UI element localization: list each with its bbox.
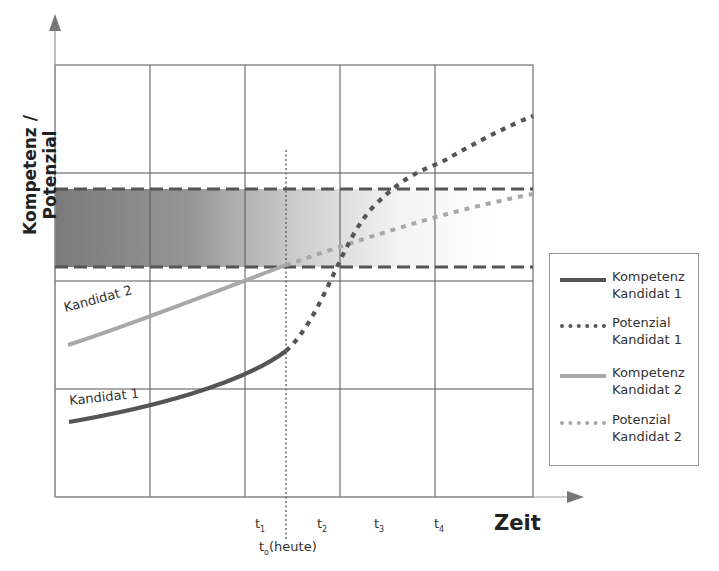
tick-t4: t4 — [434, 516, 444, 534]
legend-item-kompetenz-kandidat-2: KompetenzKandidat 2 — [550, 364, 700, 408]
x-axis-arrow-icon — [567, 491, 584, 503]
y-axis-arrow-icon — [49, 14, 61, 31]
grid — [55, 65, 533, 497]
tick-t0-today: to(heute) — [259, 539, 317, 557]
legend-item-kompetenz-kandidat-1: KompetenzKandidat 1 — [550, 268, 700, 312]
x-axis-label: Zeit — [494, 511, 541, 535]
dotted-light-line-icon — [560, 421, 606, 425]
tick-t2: t2 — [317, 516, 327, 534]
target-band — [55, 189, 495, 267]
legend: KompetenzKandidat 1 PotenzialKandidat 1 … — [549, 253, 699, 466]
tick-t3: t3 — [374, 516, 384, 534]
y-axis-label: Kompetenz / Potenzial — [20, 75, 44, 275]
kompetenz-kandidat-1-curve — [69, 351, 286, 422]
tick-t1: t1 — [255, 516, 265, 534]
legend-item-potenzial-kandidat-1: PotenzialKandidat 1 — [550, 314, 700, 358]
solid-dark-line-icon — [560, 278, 606, 282]
dotted-dark-line-icon — [560, 324, 606, 328]
solid-light-line-icon — [560, 374, 606, 378]
x-axis — [55, 491, 584, 503]
legend-item-potenzial-kandidat-2: PotenzialKandidat 2 — [550, 411, 700, 455]
